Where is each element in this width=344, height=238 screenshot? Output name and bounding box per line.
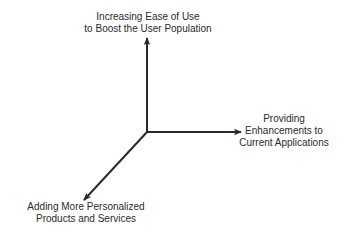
axis-up-label-line-1: Increasing Ease of Use — [78, 11, 218, 23]
axis-up-label: Increasing Ease of Use to Boost the User… — [78, 11, 218, 35]
axis-down-left-label-line-1: Adding More Personalized — [14, 201, 158, 213]
axis-up-label-line-2: to Boost the User Population — [78, 23, 218, 35]
axis-right-label-line-3: Current Applications — [226, 137, 342, 149]
axis-down-left-arrow — [84, 132, 147, 200]
axis-right-label-line-2: Enhancements to — [226, 125, 342, 137]
axis-right-label: Providing Enhancements to Current Applic… — [226, 113, 342, 149]
axis-down-left-label-line-2: Products and Services — [14, 213, 158, 225]
axis-down-left-label: Adding More Personalized Products and Se… — [14, 201, 158, 225]
axis-right-label-line-1: Providing — [226, 113, 342, 125]
